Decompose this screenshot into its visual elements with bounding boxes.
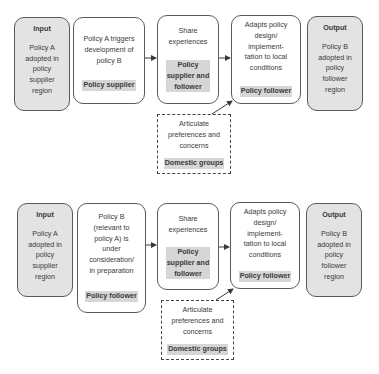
top-input-text: Policy A adopted in policy supplier regi… <box>15 43 69 97</box>
top-domestic-role: Domestic groups <box>164 158 225 169</box>
bottom-output-title: Output <box>307 210 361 221</box>
bottom-domestic-role: Domestic groups <box>167 344 228 355</box>
top-output-box: Output Policy B adopted in policy follow… <box>307 16 363 111</box>
top-step1-text: Policy A triggers development of policy … <box>74 34 144 66</box>
bottom-step3-text: Adapts policy design/ implement- tation … <box>231 207 299 261</box>
top-domestic-box: Articulate preferences and concerns Dome… <box>157 114 231 174</box>
bottom-step2-role: Policy supplier and follower <box>166 247 211 279</box>
bottom-output-text: Policy B adopted in policy follower regi… <box>307 229 361 283</box>
bottom-arrow-domestic-to-step3 <box>216 289 233 300</box>
bottom-domestic-text: Articulate preferences and concerns <box>162 305 233 337</box>
top-arrow-domestic-to-step3 <box>212 101 232 114</box>
bottom-step2-text: Share experiences <box>158 214 218 236</box>
bottom-step3-role: Policy follower <box>239 271 292 282</box>
top-step1-role: Policy supplier <box>82 80 135 91</box>
bottom-step1-role: Policy follower <box>85 291 138 302</box>
bottom-output-box: Output Policy B adopted in policy follow… <box>306 203 362 297</box>
top-input-title: Input <box>15 24 69 35</box>
bottom-domestic-box: Articulate preferences and concerns Dome… <box>161 300 234 360</box>
bottom-step2-box: Share experiences Policy supplier and fo… <box>157 203 219 290</box>
bottom-step1-text: Policy B (relevant to policy A) is under… <box>78 212 145 277</box>
bottom-step3-box: Adapts policy design/ implement- tation … <box>230 202 300 289</box>
top-output-text: Policy B adopted in policy follower regi… <box>308 42 362 96</box>
top-step3-text: Adapts policy design/ implement- tation … <box>232 20 300 74</box>
top-step2-role: Policy supplier and follower <box>166 60 211 92</box>
bottom-input-box: Input Policy A adopted in policy supplie… <box>17 203 73 297</box>
top-domestic-text: Articulate preferences and concerns <box>158 119 230 151</box>
top-step2-box: Share experiences Policy supplier and fo… <box>157 15 219 104</box>
top-step1-box: Policy A triggers development of policy … <box>73 17 145 104</box>
top-step3-role: Policy follower <box>240 86 293 97</box>
top-output-title: Output <box>308 23 362 34</box>
top-step3-box: Adapts policy design/ implement- tation … <box>231 15 301 104</box>
bottom-input-title: Input <box>18 210 72 221</box>
bottom-step1-box: Policy B (relevant to policy A) is under… <box>77 203 146 313</box>
bottom-input-text: Policy A adopted in policy supplier regi… <box>18 229 72 283</box>
top-step2-text: Share experiences <box>158 26 218 48</box>
top-input-box: Input Policy A adopted in policy supplie… <box>14 17 70 111</box>
